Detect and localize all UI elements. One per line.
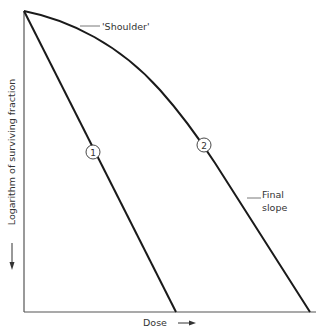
shoulder-label: 'Shoulder' bbox=[102, 21, 150, 32]
final-slope-label-line2: slope bbox=[262, 202, 287, 213]
curve-1 bbox=[24, 11, 176, 312]
curve-2-marker: 2 bbox=[197, 138, 211, 152]
curve-1-marker: 1 bbox=[86, 145, 100, 159]
final-slope-label-line1: Final bbox=[262, 189, 284, 200]
x-arrow-icon bbox=[178, 321, 196, 326]
curve-2-number: 2 bbox=[201, 141, 207, 151]
x-axis-label: Dose bbox=[143, 317, 167, 328]
curve-2 bbox=[24, 11, 310, 312]
y-axis-label: Logarithm of surviving fraction bbox=[6, 79, 17, 226]
curve-1-number: 1 bbox=[90, 148, 96, 158]
survival-curve-diagram: 1 2 'Shoulder' Final slope Dose Logarith… bbox=[0, 0, 316, 331]
y-arrow-icon bbox=[10, 243, 15, 270]
